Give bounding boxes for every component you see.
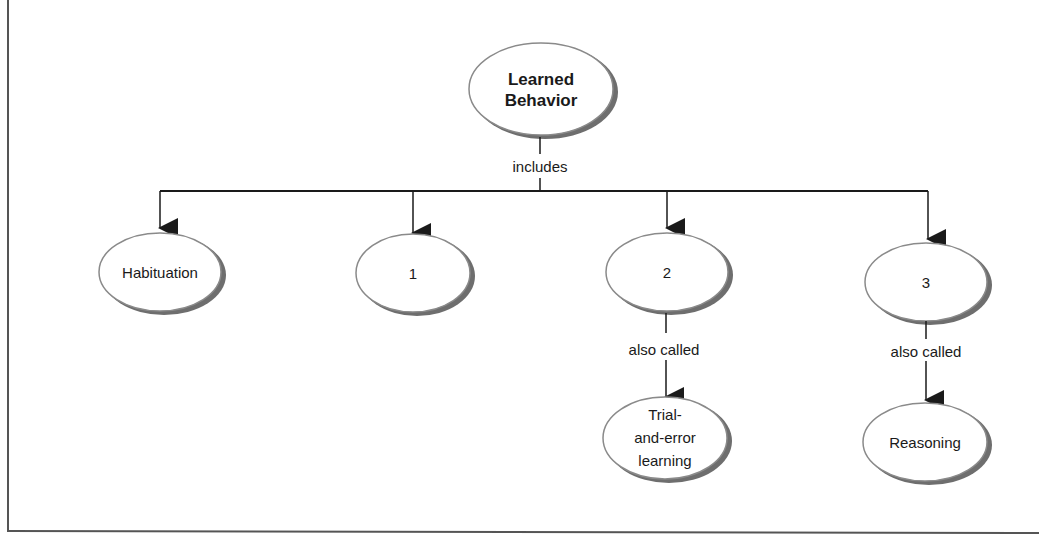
concept-map: Learned Behavior includes Habituation 1 … [0, 0, 1039, 542]
reasoning-label: Reasoning [889, 434, 961, 451]
root-label-line2: Behavior [505, 91, 578, 110]
blank-2-label: 2 [663, 264, 671, 281]
trial-label-line3: learning [638, 452, 691, 469]
trial-label-line1: Trial- [648, 406, 682, 423]
also-called-label-2: also called [629, 341, 700, 358]
node-trial-and-error: Trial- and-error learning [603, 397, 732, 483]
habituation-label: Habituation [122, 264, 198, 281]
root-label-line1: Learned [508, 70, 574, 89]
connector-2-sub: also called [629, 313, 700, 397]
node-blank-1: 1 [356, 234, 475, 316]
blank-1-label: 1 [409, 265, 417, 282]
node-reasoning: Reasoning [863, 403, 992, 485]
includes-label: includes [512, 158, 567, 175]
node-blank-3: 3 [865, 243, 992, 325]
node-habituation: Habituation [99, 233, 226, 315]
trial-label-line2: and-error [634, 429, 696, 446]
blank-3-label: 3 [922, 274, 930, 291]
also-called-label-3: also called [891, 343, 962, 360]
root-node: Learned Behavior [469, 43, 618, 139]
node-blank-2: 2 [606, 233, 733, 315]
connector-3-sub: also called [891, 321, 962, 400]
root-connector: includes [160, 137, 928, 239]
